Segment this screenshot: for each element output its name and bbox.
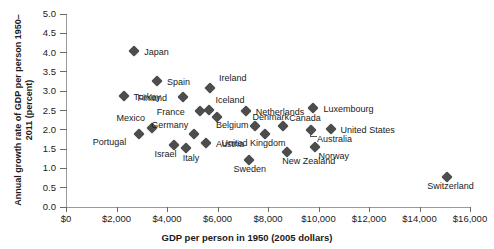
y-tick-label: 4.0 (20, 48, 56, 58)
y-tick-label: 1.0 (20, 163, 56, 173)
point-label: France (157, 107, 185, 117)
x-tick-label: $16,000 (440, 213, 494, 224)
point-label: Sweden (234, 164, 267, 174)
y-tick-label: 3.5 (20, 67, 56, 77)
y-tick-label: 4.5 (20, 28, 56, 38)
y-tick-label: 2.0 (20, 125, 56, 135)
x-tick (420, 207, 421, 212)
x-tick (117, 207, 118, 212)
x-tick (167, 207, 168, 212)
point-label: Belgium (216, 120, 249, 130)
point-label: Italy (183, 153, 200, 163)
australia-leader-line (310, 131, 317, 137)
y-tick-label: 5.0 (20, 9, 56, 19)
scatter-chart: Annual growth rate of GDP per person 195… (0, 0, 494, 249)
x-tick (470, 207, 471, 212)
point-label: Japan (144, 47, 169, 57)
x-tick (218, 207, 219, 212)
y-tick-label: 2.5 (20, 106, 56, 116)
x-tick (369, 207, 370, 212)
point-label: New Zealand (282, 156, 335, 166)
point-label: Luxembourg (323, 104, 373, 114)
y-tick-label: 1.5 (20, 144, 56, 154)
point-label: Spain (167, 77, 190, 87)
y-tick-label: 0.0 (20, 202, 56, 212)
point-label: Israel (155, 149, 177, 159)
y-tick-label: 0.5 (20, 183, 56, 193)
x-tick (66, 207, 67, 212)
x-axis-title: GDP per person in 1950 (2005 dollars) (0, 232, 494, 243)
y-tick-label: 3.0 (20, 86, 56, 96)
point-label: Finland (137, 93, 167, 103)
point-label: Portugal (93, 137, 127, 147)
point-label: United Kingdom (221, 138, 285, 148)
point-label: Australia (317, 134, 352, 144)
point-label: Switzerland (427, 181, 474, 191)
point-label: Iceland (215, 95, 244, 105)
point-label: Ireland (219, 73, 247, 83)
x-tick (268, 207, 269, 212)
point-label: Mexico (117, 113, 146, 123)
point-label: Germany (151, 120, 188, 130)
x-tick (319, 207, 320, 212)
point-label: Canada (289, 113, 321, 123)
